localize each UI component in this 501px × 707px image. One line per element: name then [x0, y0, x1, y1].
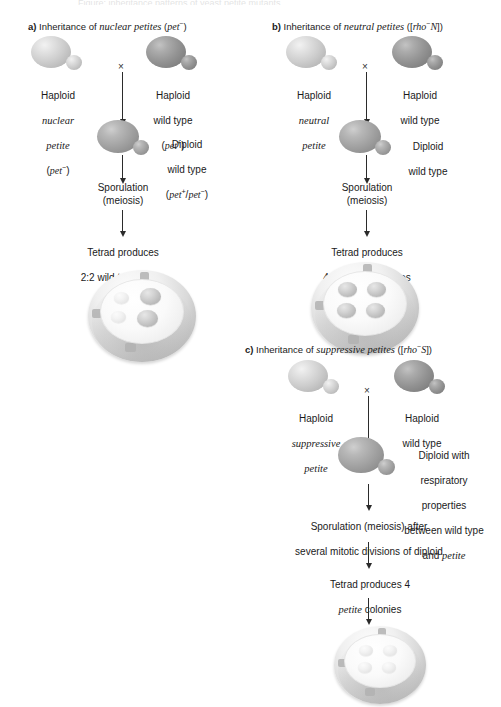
panel-a-arrow-to-sporulation [122, 155, 123, 179]
panel-a-sporulation-step: Sporulation (meiosis) [80, 182, 166, 207]
panel-c-cross-symbol: × [364, 386, 370, 396]
panel-a-cross-symbol: × [118, 62, 124, 72]
panel-b-tetrad-line1: Tetrad produces [300, 247, 434, 260]
panel-a-title-close: ) [183, 21, 186, 32]
panel-a-haploid-wildtype-cell [146, 36, 198, 72]
panel-c-colony-2 [383, 645, 397, 656]
panel-c-haploid-wildtype-cell [394, 360, 446, 396]
panel-c-left-parent-line1: Haploid [272, 413, 360, 426]
panel-b-left-parent-line1: Haploid [274, 90, 354, 103]
panel-c-colony-4 [382, 662, 396, 673]
panel-b-title-italic: neutral petites [344, 21, 404, 32]
panel-a-cross-arrow [122, 72, 123, 120]
panel-a-colony-1 [114, 292, 129, 304]
panel-b-haploid-wildtype-cell [392, 36, 444, 72]
panel-c-arrow-to-dish [368, 598, 369, 620]
panel-c-sporulation-step: Sporulation (meiosis) after several mito… [248, 508, 490, 571]
panel-b-sporulation-step: Sporulation (meiosis) [324, 182, 410, 207]
panel-c-sporulation-line2: several mitotic divisions of diploid [248, 546, 490, 559]
panel-b-cross-arrow [366, 72, 367, 120]
panel-b-diploid-line1: Diploid [392, 141, 464, 154]
panel-b-title-close: ]) [437, 21, 443, 32]
panel-a-arrow-to-tetrad [122, 210, 123, 232]
cropped-caption-fragment: Figure: inheritance patterns of yeast pe… [78, 0, 378, 5]
panel-b-diploid-line2: wild type [392, 166, 464, 179]
panel-a-diploid-line2: wild type [148, 164, 226, 177]
panel-b-title-gene: rho [413, 21, 427, 32]
panel-b-title-open: ([ [404, 21, 412, 32]
panel-a-title-prefix: Inheritance of [39, 21, 99, 32]
panel-c-haploid-petite-cell [288, 360, 340, 396]
panel-c-diploid-line1: Diploid with [388, 450, 500, 463]
panel-b-arrow-to-tetrad [366, 210, 367, 232]
panel-b-title-prefix: Inheritance of [284, 21, 344, 32]
panel-c-right-parent-line1: Haploid [382, 413, 462, 426]
panel-c-cross-arrow [368, 396, 369, 440]
panel-a-left-parent-line2: nuclear [18, 115, 98, 128]
panel-c-title-prefix: Inheritance of [256, 344, 316, 355]
panel-c-arrow-to-tetrad [368, 542, 369, 564]
panel-a-left-parent-label: Haploid nuclear petite (pet−) [18, 77, 98, 190]
panel-a-tetrad-line1: Tetrad produces [62, 247, 184, 260]
panel-b-right-parent-line1: Haploid [380, 90, 460, 103]
panel-a-title: a) Inheritance of nuclear petites (pet−) [28, 21, 187, 34]
panel-b-letter: b) [272, 21, 281, 32]
panel-a-title-gene: pet [167, 21, 179, 32]
panel-a-haploid-petite-cell [31, 36, 83, 72]
panel-b-cross-symbol: × [362, 62, 368, 72]
panel-c-colony-1 [359, 645, 373, 656]
panel-c-tetrad-line1: Tetrad produces 4 [310, 579, 430, 592]
panel-b-title: b) Inheritance of neutral petites ([rho−… [272, 21, 443, 34]
panel-b-arrow-to-sporulation [366, 155, 367, 179]
figure-canvas: { "figure": { "cropped_caption_fragment"… [0, 0, 501, 707]
panel-c-title-close: ]) [426, 344, 432, 355]
panel-c-petri-dish [334, 626, 426, 704]
panel-a-diploid-line1: Diploid [148, 139, 226, 152]
panel-c-tetrad-line2: petite colonies [310, 604, 430, 617]
panel-c-diploid-line2: respiratory [388, 475, 500, 488]
panel-b-haploid-petite-cell [286, 36, 338, 72]
panel-a-petri-dish [88, 270, 196, 362]
panel-c-title-italic: suppressive petites [316, 344, 395, 355]
panel-a-right-parent-line1: Haploid [133, 90, 213, 103]
panel-c-arrow-to-sporulation [368, 484, 369, 506]
panel-a-left-parent-genotype: (pet−) [18, 165, 98, 178]
panel-c-title-gene: rho [403, 344, 417, 355]
panel-c-colony-3 [358, 662, 372, 673]
panel-c-letter: c) [245, 344, 253, 355]
panel-c-title: c) Inheritance of suppressive petites ([… [245, 344, 432, 357]
panel-a-left-parent-line3: petite [18, 140, 98, 153]
panel-a-left-parent-line1: Haploid [18, 90, 98, 103]
panel-a-diploid-cell [97, 120, 151, 158]
panel-b-petri-dish [311, 262, 419, 354]
panel-a-title-italic: nuclear petites [99, 21, 161, 32]
panel-a-letter: a) [28, 21, 36, 32]
panel-b-diploid-cell [339, 120, 393, 158]
panel-c-sporulation-line1: Sporulation (meiosis) after [248, 521, 490, 534]
